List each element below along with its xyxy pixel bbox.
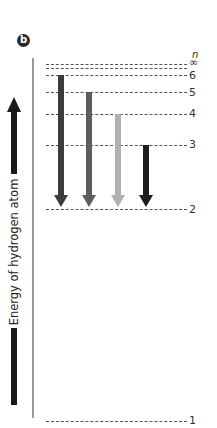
energy-arrow-up-icon	[7, 97, 21, 112]
transition-3-to-2-arrow	[143, 145, 149, 196]
energy-arrow-shaft	[11, 111, 17, 174]
energy-axis-line	[32, 58, 34, 418]
energy-axis-label: Energy of hydrogen atom	[7, 179, 21, 326]
energy-level-7	[46, 68, 187, 69]
level-label-1: 1	[189, 415, 196, 426]
energy-level-6	[46, 75, 187, 76]
transition-6-to-2-arrow	[58, 75, 64, 196]
arrow-down-icon	[139, 195, 153, 207]
arrow-down-icon	[54, 195, 68, 207]
level-label-3: 3	[189, 139, 196, 150]
panel-label-badge: b	[17, 34, 30, 47]
level-label-2: 2	[189, 204, 196, 215]
energy-level-infinity	[46, 64, 187, 65]
level-label-4: 4	[189, 108, 196, 119]
level-label-6: 6	[189, 70, 196, 81]
energy-level-5	[46, 92, 187, 93]
arrow-down-icon	[111, 195, 125, 207]
level-label-5: 5	[189, 87, 196, 98]
arrow-down-icon	[82, 195, 96, 207]
energy-level-2	[46, 209, 187, 210]
energy-level-1	[46, 421, 187, 422]
energy-arrow-tail	[11, 328, 17, 405]
transition-4-to-2-arrow	[115, 114, 121, 196]
transition-5-to-2-arrow	[86, 92, 92, 196]
level-label-infinity: ∞	[189, 57, 198, 68]
